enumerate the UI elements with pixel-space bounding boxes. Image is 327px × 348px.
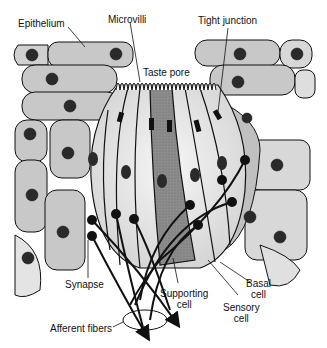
label-taste-pore: Taste pore (143, 67, 190, 78)
label-sensory-cell: Sensory cell (223, 302, 260, 324)
label-supporting-cell-line2: cell (160, 299, 208, 310)
label-supporting-cell: Supporting cell (160, 288, 208, 310)
label-tight-junction: Tight junction (198, 15, 257, 26)
microvilli (116, 83, 216, 90)
label-epithelium: Epithelium (18, 18, 65, 29)
label-sensory-cell-line1: Sensory (223, 302, 260, 313)
label-afferent-fibers: Afferent fibers (50, 323, 112, 334)
label-sensory-cell-line2: cell (223, 313, 260, 324)
label-microvilli: Microvilli (108, 14, 146, 25)
label-basal-cell-line1: Basal (246, 278, 271, 289)
label-synapse: Synapse (65, 279, 104, 290)
label-basal-cell-line2: cell (246, 289, 271, 300)
label-supporting-cell-line1: Supporting (160, 288, 208, 299)
label-basal-cell: Basal cell (246, 278, 271, 300)
